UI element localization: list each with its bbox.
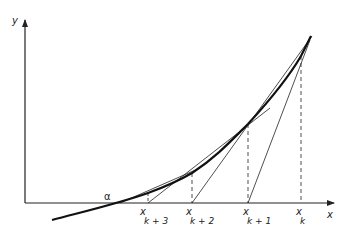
svg-text:k + 3: k + 3 — [144, 216, 168, 226]
label-xk: x k — [295, 206, 306, 226]
secant-line-3 — [148, 108, 270, 203]
function-curve — [52, 36, 311, 220]
label-xk2: x k + 2 — [185, 206, 214, 226]
svg-text:k: k — [300, 216, 306, 226]
secant-method-diagram: y x α x k x k + 1 x k + 2 x k + 3 — [0, 0, 346, 230]
svg-text:k + 1: k + 1 — [247, 216, 271, 226]
label-xk3: x k + 3 — [139, 206, 168, 226]
label-xk1: x k + 1 — [242, 206, 271, 226]
root-label: α — [104, 191, 111, 202]
y-axis-label: y — [11, 15, 19, 26]
svg-text:k + 2: k + 2 — [190, 216, 214, 226]
x-axis-label: x — [326, 209, 333, 220]
